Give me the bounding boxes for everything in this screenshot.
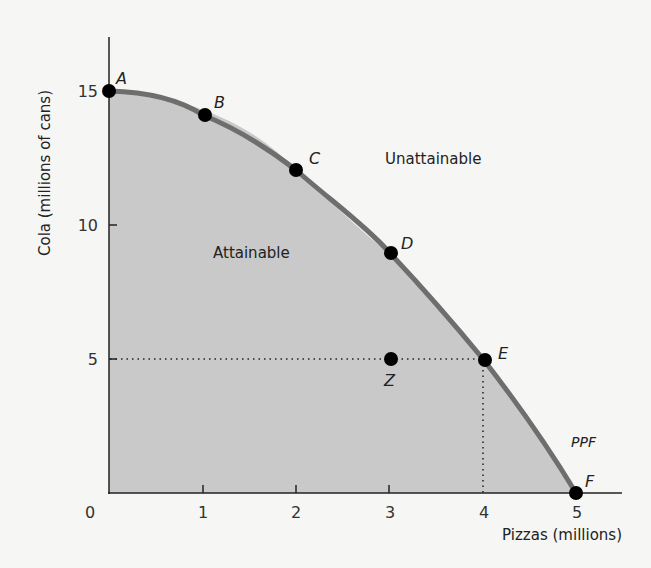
y-tick-label: 10 <box>78 216 98 235</box>
point-b <box>198 108 212 122</box>
x-axis-title: Pizzas (millions) <box>502 526 622 544</box>
label-a: A <box>115 69 127 88</box>
y-tick-label: 5 <box>88 350 98 369</box>
ppf-label: PPF <box>571 434 597 450</box>
label-z: Z <box>383 371 396 390</box>
attainable-label: Attainable <box>213 244 290 262</box>
x-tick-label: 4 <box>479 503 489 522</box>
label-d: D <box>401 234 413 253</box>
label-e: E <box>498 344 509 363</box>
y-tick-label: 15 <box>78 82 98 101</box>
x-tick-label: 3 <box>385 503 395 522</box>
x-tick-label: 1 <box>198 503 208 522</box>
x-tick-label: 0 <box>85 503 95 522</box>
x-tick-label: 2 <box>291 503 301 522</box>
unattainable-label: Unattainable <box>385 150 481 168</box>
ppf-chart: A B C D E F Z Attainable Unattainable PP… <box>0 0 651 568</box>
point-a <box>102 84 116 98</box>
attainable-region <box>109 91 576 493</box>
y-axis-title: Cola (millions of cans) <box>36 90 54 256</box>
label-c: C <box>309 149 321 168</box>
label-b: B <box>214 93 225 112</box>
point-z <box>384 352 398 366</box>
point-e <box>478 353 492 367</box>
label-f: F <box>585 472 595 491</box>
point-f <box>569 486 583 500</box>
point-d <box>384 246 398 260</box>
point-c <box>289 163 303 177</box>
x-tick-label: 5 <box>572 503 582 522</box>
